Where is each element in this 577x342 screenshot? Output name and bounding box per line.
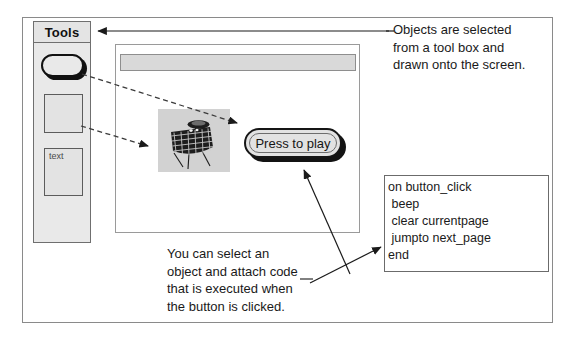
caption-attach-code: You can select an object and attach code… (167, 245, 342, 315)
app-window: Press to play (115, 44, 360, 233)
tool-item-text-label: text (49, 152, 64, 161)
tool-button-face (41, 54, 84, 77)
tools-palette: Tools text (33, 21, 91, 243)
code-line: clear currentpage (388, 213, 548, 230)
code-box[interactable]: on button_click beep clear currentpage j… (384, 175, 549, 272)
code-line: on button_click (388, 179, 548, 196)
press-to-play-face: Press to play (244, 128, 342, 158)
code-line: beep (388, 196, 548, 213)
tool-item-text[interactable]: text (44, 148, 83, 196)
caption-line: the button is clicked. (167, 298, 342, 316)
code-line: jumpto next_page (388, 230, 548, 247)
caption-line: drawn onto the screen. (393, 56, 553, 74)
caption-line: from a tool box and (393, 39, 553, 57)
tool-item-rectangle[interactable] (44, 94, 83, 133)
caption-line: You can select an (167, 245, 342, 263)
tools-palette-titlebar: Tools (34, 22, 90, 43)
press-to-play-button[interactable]: Press to play (244, 128, 342, 158)
press-to-play-label: Press to play (255, 137, 330, 150)
caption-line: object and attach code (167, 263, 342, 281)
diagram-canvas: Tools text (0, 0, 577, 342)
caption-line: that is executed when (167, 280, 342, 298)
code-line: end (388, 247, 548, 264)
tool-item-button[interactable] (41, 54, 84, 77)
app-window-titlebar (120, 54, 356, 71)
caption-line: Objects are selected (393, 21, 553, 39)
caption-objects-selected: Objects are selected from a tool box and… (393, 21, 553, 74)
satellite-clipart[interactable] (158, 109, 230, 172)
tools-palette-title: Tools (45, 26, 80, 39)
